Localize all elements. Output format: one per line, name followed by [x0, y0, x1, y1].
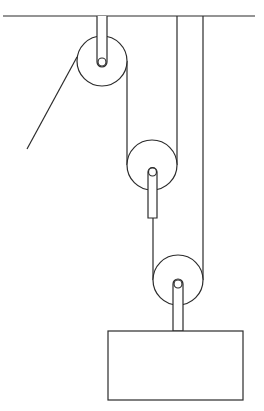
movable-pulley-bottom	[153, 255, 203, 331]
load-block	[108, 331, 243, 400]
pulley-axle	[98, 58, 106, 66]
fixed-pulley-top	[77, 16, 127, 86]
movable-pulley-middle	[127, 140, 177, 218]
pulley-axle	[149, 168, 157, 176]
pulley-axle	[174, 280, 182, 288]
pull-rope	[27, 57, 77, 149]
pulley-diagram	[0, 0, 264, 411]
